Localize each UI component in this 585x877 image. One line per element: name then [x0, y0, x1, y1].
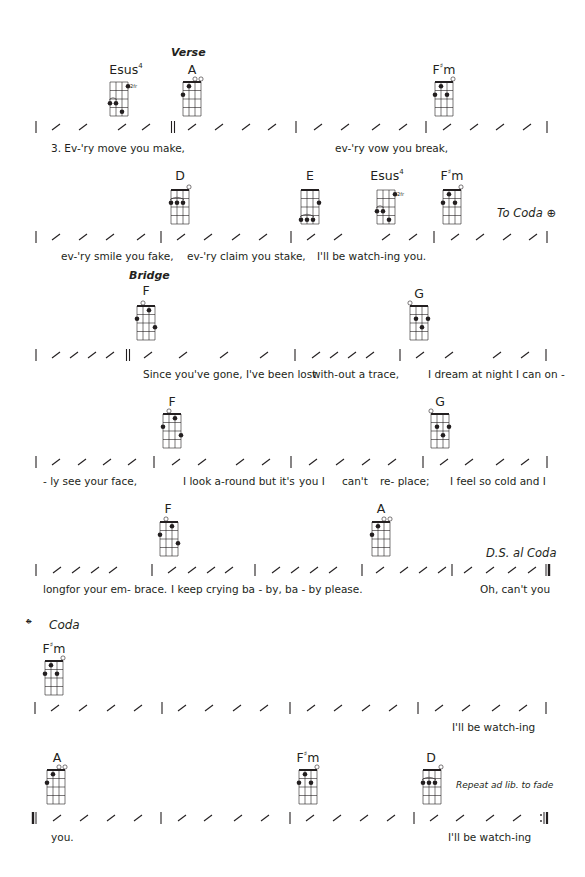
chord-diagram-f-sharp-minor	[43, 656, 65, 695]
chord-diagram-a	[45, 765, 67, 804]
beat-slash	[521, 459, 529, 465]
beat-slash	[419, 567, 427, 573]
chord-root: D	[426, 750, 436, 765]
beat-slash	[430, 815, 438, 821]
beat-slash	[309, 459, 317, 465]
beat-slash	[462, 705, 470, 711]
beat-slash	[91, 567, 99, 573]
chord-name-f: F	[142, 285, 149, 298]
sharp-sign: ♯	[50, 641, 53, 649]
beat-slash	[52, 234, 60, 240]
beat-slash	[465, 459, 473, 465]
beat-slash	[330, 352, 338, 358]
chord-name-d: D	[426, 752, 436, 765]
beat-slash	[134, 705, 142, 711]
beat-slash	[376, 567, 384, 573]
chord-name-f-sharp-minor: F♯m	[297, 752, 320, 765]
chord-diagram-a	[181, 77, 203, 116]
lyric-line-4a: - ly see your face,	[43, 476, 137, 487]
lyric-line-7b: I'll be watch-ing	[448, 832, 531, 843]
beat-slash	[341, 124, 349, 130]
lyric-line-7a: you.	[51, 832, 74, 843]
beat-slash	[307, 705, 315, 711]
beat-slash	[528, 567, 536, 573]
chord-name-e: E	[306, 170, 314, 183]
beat-slash	[51, 705, 59, 711]
beat-slash	[389, 705, 397, 711]
chord-name-a: A	[188, 64, 197, 77]
chord-name-f: F	[164, 503, 171, 516]
chord-root: Esus	[370, 168, 399, 183]
beat-slash	[179, 352, 187, 358]
section-label-coda: Coda	[49, 619, 80, 631]
beat-slash	[440, 459, 448, 465]
beat-slash	[177, 234, 185, 240]
beat-slash	[334, 234, 342, 240]
to-coda-direction: To Coda ⊕	[497, 208, 556, 220]
repeat-dot	[540, 820, 542, 822]
chord-diagram-f-sharp-minor	[433, 77, 455, 116]
beat-slash	[118, 124, 126, 130]
lyric-line-4e: re- place;	[380, 476, 429, 487]
beat-slash	[178, 705, 186, 711]
beat-slash	[172, 459, 180, 465]
chord-name-a: A	[53, 752, 62, 765]
lyric-line-4c: you I	[299, 476, 325, 487]
beat-slash	[523, 124, 531, 130]
beat-slash	[204, 234, 212, 240]
beat-slash	[360, 815, 368, 821]
ds-al-coda-direction: D.S. al Coda	[486, 548, 556, 560]
beat-slash	[312, 352, 320, 358]
beat-slash	[336, 459, 344, 465]
chord-extension: 4	[138, 62, 142, 70]
beat-slash	[259, 234, 267, 240]
beat-slash	[188, 567, 196, 573]
lyric-line-2c: I'll be watch-ing you.	[317, 251, 426, 262]
beat-slash	[387, 815, 395, 821]
beat-slash	[291, 567, 299, 573]
lyric-line-4b: I look a-round but it's	[183, 476, 295, 487]
chord-quality: m	[307, 750, 319, 765]
to-coda-label: To Coda	[497, 206, 543, 220]
beat-slash	[372, 124, 380, 130]
chord-name-g: G	[414, 288, 424, 301]
beat-slash	[399, 124, 407, 130]
lyric-line-2a: ev-'ry smile you fake,	[61, 251, 174, 262]
beat-slash	[416, 352, 424, 358]
beat-slash	[470, 124, 478, 130]
beat-slash	[79, 124, 87, 130]
beat-slash	[168, 567, 176, 573]
beat-slash	[52, 124, 60, 130]
beat-slash	[80, 815, 88, 821]
beat-slash	[79, 234, 87, 240]
chord-name-esus4: Esus4	[109, 64, 142, 77]
beat-slash	[220, 352, 228, 358]
beat-slash	[476, 234, 484, 240]
beat-slash	[486, 567, 494, 573]
beat-slash	[362, 705, 370, 711]
beat-slash	[306, 815, 314, 821]
beat-slash	[144, 352, 152, 358]
beat-slash	[333, 815, 341, 821]
beat-slash	[106, 234, 114, 240]
beat-slash	[334, 705, 342, 711]
chord-diagram-f-sharp-minor	[441, 185, 463, 224]
beat-slash	[456, 815, 464, 821]
coda-icon: 𝄌	[26, 617, 32, 633]
beat-slash	[107, 705, 115, 711]
lyric-line-3b: with-out a trace,	[312, 369, 399, 380]
chord-diagram-f	[158, 517, 181, 556]
beat-slash	[348, 352, 356, 358]
beat-slash	[52, 352, 60, 358]
beat-slash	[233, 705, 241, 711]
chord-name-f-sharp-minor: F♯m	[433, 64, 456, 77]
beat-slash	[260, 352, 268, 358]
beat-slash	[388, 459, 396, 465]
beat-slash	[508, 567, 516, 573]
beat-slash	[78, 459, 86, 465]
beat-slash	[382, 234, 390, 240]
lyric-line-3c: I dream at night I can on -	[428, 369, 565, 380]
beat-slash	[496, 459, 504, 465]
lyric-line-5b: I keep crying ba - by, ba - by please.	[171, 584, 363, 595]
chord-root: G	[435, 394, 445, 409]
